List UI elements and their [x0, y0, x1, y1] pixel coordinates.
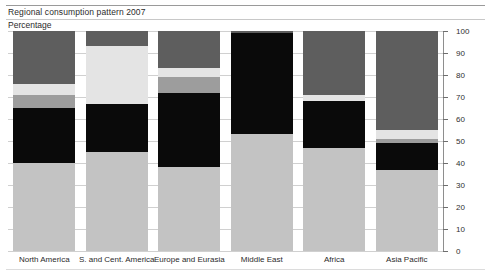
- tick-mark-20: [443, 207, 448, 208]
- bar-segment-segment-mid-gray: [376, 139, 438, 143]
- y-tick-label: 40: [456, 159, 465, 168]
- tick-mark-60: [443, 119, 448, 120]
- bar-north-america: [13, 31, 75, 251]
- bar-segment-segment-dark: [231, 33, 293, 134]
- bar-segment-segment-bottom: [303, 148, 365, 251]
- tick-mark-0: [443, 251, 448, 252]
- bar-asia-pacific: [376, 31, 438, 251]
- tick-mark-40: [443, 163, 448, 164]
- bar-segment-segment-top: [86, 31, 148, 46]
- chart-subtitle: Percentage: [8, 20, 51, 30]
- x-axis-label-europe-and-eurasia: Europe and Eurasia: [154, 255, 225, 264]
- bar-segment-segment-top: [158, 31, 220, 68]
- bar-segment-segment-dark: [376, 143, 438, 169]
- top-divider: [6, 5, 485, 6]
- bar-segment-segment-bottom: [231, 134, 293, 251]
- x-axis-label-asia-pacific: Asia Pacific: [386, 255, 427, 264]
- bar-segment-segment-dark: [13, 108, 75, 163]
- bar-segment-segment-light: [303, 95, 365, 102]
- bar-europe-and-eurasia: [158, 31, 220, 251]
- y-tick-label: 20: [456, 203, 465, 212]
- chart-plot-area: [8, 31, 443, 251]
- y-tick-label: 30: [456, 181, 465, 190]
- x-axis-label-north-america: North America: [19, 255, 70, 264]
- x-axis-label-middle-east: Middle East: [241, 255, 283, 264]
- y-tick-label: 90: [456, 49, 465, 58]
- title-divider: [6, 19, 485, 20]
- tick-mark-50: [443, 141, 448, 142]
- y-tick-label: 50: [456, 137, 465, 146]
- chart-bars: [8, 31, 443, 251]
- bar-segment-segment-bottom: [158, 167, 220, 251]
- bar-segment-segment-top: [13, 31, 75, 84]
- tick-mark-80: [443, 75, 448, 76]
- bar-segment-segment-top: [376, 31, 438, 130]
- bar-segment-segment-light: [86, 46, 148, 103]
- bar-segment-segment-top: [303, 31, 365, 95]
- x-axis-label-s-and-cent-america: S. and Cent. America: [79, 255, 155, 264]
- bar-segment-segment-dark: [158, 93, 220, 168]
- page-title: Regional consumption pattern 2007: [8, 7, 146, 17]
- bar-segment-segment-top: [231, 31, 293, 33]
- tick-mark-30: [443, 185, 448, 186]
- y-tick-label: 10: [456, 225, 465, 234]
- bar-segment-segment-light: [13, 84, 75, 95]
- bar-segment-segment-mid-gray: [13, 95, 75, 108]
- bottom-divider: [6, 269, 485, 270]
- tick-mark-90: [443, 53, 448, 54]
- y-tick-label: 100: [456, 27, 469, 36]
- y-axis-ticks: 0102030405060708090100: [443, 31, 489, 252]
- bar-africa: [303, 31, 365, 251]
- tick-mark-70: [443, 97, 448, 98]
- bar-segment-segment-bottom: [376, 170, 438, 251]
- y-tick-label: 80: [456, 71, 465, 80]
- bar-segment-segment-light: [376, 130, 438, 139]
- y-tick-label: 70: [456, 93, 465, 102]
- bar-segment-segment-light: [158, 68, 220, 77]
- bar-segment-segment-dark: [303, 101, 365, 147]
- bar-segment-segment-bottom: [86, 152, 148, 251]
- bar-segment-segment-bottom: [13, 163, 75, 251]
- bar-segment-segment-mid-gray: [158, 77, 220, 92]
- gridline-0: [8, 251, 443, 252]
- tick-mark-10: [443, 229, 448, 230]
- bar-s-and-cent-america: [86, 31, 148, 251]
- y-tick-label: 60: [456, 115, 465, 124]
- bar-segment-segment-dark: [86, 104, 148, 152]
- x-axis-label-africa: Africa: [324, 255, 344, 264]
- tick-mark-100: [443, 31, 448, 32]
- bar-middle-east: [231, 31, 293, 251]
